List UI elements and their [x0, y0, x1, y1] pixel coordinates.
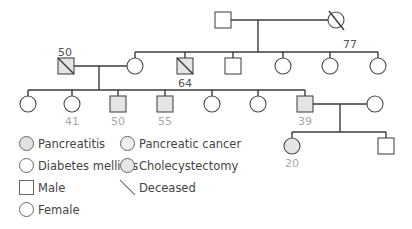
g3-age-41: 41	[65, 115, 79, 128]
legend-male: Male	[19, 180, 65, 195]
g3-male-55	[157, 96, 173, 112]
male-square-icon	[19, 180, 34, 195]
g3-female-41	[64, 96, 80, 112]
legend-cholecystectomy: Cholecystectomy	[120, 158, 238, 173]
g4-female-20	[284, 138, 300, 154]
female-circle-icon	[19, 202, 34, 217]
g2-brother-age: 64	[178, 77, 192, 90]
legend-label: Pancreatitis	[38, 137, 105, 151]
g3-female	[20, 96, 36, 112]
legend-label: Deceased	[139, 181, 196, 195]
g3-male-50	[110, 96, 126, 112]
legend-pancreatitis: Pancreatitis	[19, 136, 105, 151]
legend-label: Female	[38, 203, 80, 217]
g3-age-55: 55	[158, 115, 172, 128]
diabetes-swatch-icon	[19, 158, 34, 173]
g3-female	[250, 96, 266, 112]
pancreatitis-swatch-icon	[19, 136, 34, 151]
g1-female-age: 77	[343, 38, 357, 51]
cholecystectomy-swatch-icon	[120, 158, 135, 173]
g3-age-50: 50	[111, 115, 125, 128]
g2-mother	[127, 58, 143, 74]
legend-label: Cholecystectomy	[139, 159, 238, 173]
g2-father-age: 50	[58, 46, 72, 59]
g4-male	[378, 138, 394, 154]
pancreatic-cancer-swatch-icon	[120, 136, 135, 151]
g1-male	[215, 12, 231, 28]
legend-pancreatic-cancer: Pancreatic cancer	[120, 136, 241, 151]
legend-label: Pancreatic cancer	[139, 137, 241, 151]
legend-female: Female	[19, 202, 80, 217]
g2-sister	[275, 58, 291, 74]
legend-deceased: Deceased	[120, 180, 196, 195]
g4-age-20: 20	[285, 157, 299, 170]
g3-age-39: 39	[298, 115, 312, 128]
deceased-slash-icon	[120, 180, 135, 195]
g3-male-39	[297, 96, 313, 112]
g3-female	[204, 96, 220, 112]
g2-sister	[322, 58, 338, 74]
g3-spouse	[367, 96, 383, 112]
g2-sister	[370, 58, 386, 74]
g2-brother	[225, 58, 241, 74]
legend-label: Male	[38, 181, 65, 195]
